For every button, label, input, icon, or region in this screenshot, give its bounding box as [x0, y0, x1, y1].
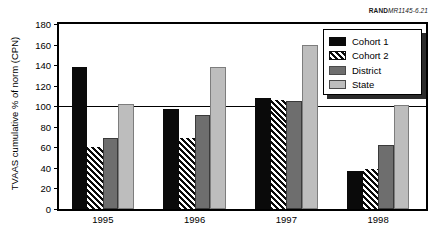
- y-axis-tick-label: 160: [35, 39, 51, 50]
- y-axis-tick: [54, 147, 59, 148]
- bar-group-1996: [163, 24, 225, 209]
- legend-label: Cohort 1: [352, 37, 388, 47]
- x-axis-tick-label: 1996: [184, 214, 205, 225]
- y-axis-tick: [54, 168, 59, 169]
- legend-label: District: [352, 66, 381, 76]
- figure-id: RANDMR1145-6.21: [369, 7, 428, 14]
- legend-item-cohort-2: Cohort 2: [329, 49, 421, 64]
- legend-item-district: District: [329, 63, 421, 78]
- y-axis-tick: [54, 24, 59, 25]
- y-axis-tick-label: 120: [35, 80, 51, 91]
- bar-cohort-1-1997: [255, 98, 271, 209]
- legend-item-state: State: [329, 78, 421, 93]
- bar-cohort-2-1997: [271, 100, 287, 209]
- bar-group-1997: [255, 24, 317, 209]
- bar-state-1998: [394, 105, 410, 209]
- y-axis-tick: [54, 45, 59, 46]
- bar-state-1996: [210, 67, 226, 209]
- legend-swatch-icon: [329, 80, 346, 89]
- bar-state-1995: [118, 104, 134, 209]
- bar-cohort-1-1995: [72, 67, 88, 209]
- x-axis-tick-label: 1998: [368, 214, 389, 225]
- x-axis-tick-label: 1995: [92, 214, 113, 225]
- legend-label: Cohort 2: [352, 51, 388, 61]
- bar-cohort-2-1995: [87, 147, 103, 209]
- legend-item-cohort-1: Cohort 1: [329, 34, 421, 49]
- y-axis-tick-label: 100: [35, 101, 51, 112]
- figure-id-number: MR1145-6.21: [388, 7, 428, 14]
- legend-swatch-icon: [329, 51, 346, 60]
- bar-district-1995: [103, 138, 119, 209]
- y-axis-tick-label: 140: [35, 60, 51, 71]
- y-axis-tick-label: 20: [40, 183, 51, 194]
- y-axis-tick: [54, 65, 59, 66]
- bar-cohort-1-1998: [347, 171, 363, 209]
- legend-swatch-icon: [329, 37, 346, 46]
- bar-district-1996: [195, 115, 211, 209]
- y-axis-title: TVAAS cumulative % of norm (CPN): [9, 14, 20, 214]
- y-axis-tick-label: 0: [46, 204, 51, 215]
- bar-cohort-1-1996: [163, 109, 179, 209]
- legend-label: State: [352, 80, 374, 90]
- bar-cohort-2-1996: [179, 138, 195, 209]
- y-axis-tick: [54, 86, 59, 87]
- bar-state-1997: [302, 45, 318, 209]
- y-axis-tick: [54, 127, 59, 128]
- y-axis-tick-label: 60: [40, 142, 51, 153]
- legend-swatch-icon: [329, 66, 346, 75]
- bar-district-1997: [286, 101, 302, 209]
- y-axis-tick: [54, 209, 59, 210]
- x-axis-tick-label: 1997: [276, 214, 297, 225]
- bar-cohort-2-1998: [363, 169, 379, 209]
- bar-district-1998: [378, 145, 394, 209]
- bar-group-1995: [72, 24, 134, 209]
- y-axis-tick: [54, 188, 59, 189]
- y-axis-tick-label: 40: [40, 162, 51, 173]
- figure-id-prefix: RAND: [369, 7, 388, 14]
- y-axis-tick-label: 80: [40, 121, 51, 132]
- chart-legend: Cohort 1Cohort 2DistrictState: [323, 29, 422, 95]
- y-axis-tick-label: 180: [35, 19, 51, 30]
